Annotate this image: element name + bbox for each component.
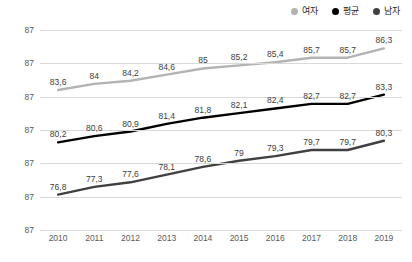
gridline [40,130,402,131]
legend-label: 여자 [302,7,318,16]
plot-area: 8787878787878783,68484,284,68585,285,485… [40,30,402,230]
chart-legend: 여자평균남자 [291,4,400,18]
gridline [40,30,402,31]
line-chart: 여자평균남자 8787878787878783,68484,284,68585,… [0,0,412,262]
y-axis-tick-label: 87 [25,192,34,201]
x-axis-tick-label: 2016 [266,234,285,243]
gridline [40,230,402,231]
x-axis: 2010201120122013201420152016201720182019 [40,232,402,248]
y-axis-tick-label: 87 [25,126,34,135]
x-axis-tick-label: 2010 [49,234,68,243]
legend-item-여자[interactable]: 여자 [291,7,318,16]
x-axis-tick-label: 2017 [302,234,321,243]
legend-dot-icon [332,8,339,15]
gridline [40,197,402,198]
x-axis-tick-label: 2015 [230,234,249,243]
y-axis-tick-label: 87 [25,26,34,35]
y-axis-tick-label: 87 [25,226,34,235]
legend-dot-icon [291,8,298,15]
x-axis-tick-label: 2012 [121,234,140,243]
y-axis-tick-label: 87 [25,159,34,168]
x-axis-tick-label: 2019 [374,234,393,243]
gridline [40,63,402,64]
series-line-여자 [58,48,384,90]
x-axis-tick-label: 2011 [85,234,103,243]
legend-label: 평균 [343,7,359,16]
legend-item-남자[interactable]: 남자 [373,7,400,16]
series-line-남자 [58,141,384,195]
x-axis-tick-label: 2014 [193,234,212,243]
legend-dot-icon [373,8,380,15]
legend-item-평균[interactable]: 평균 [332,7,359,16]
gridline [40,163,402,164]
gridline [40,97,402,98]
series-line-평균 [58,95,384,143]
x-axis-tick-label: 2013 [157,234,176,243]
y-axis-tick-label: 87 [25,92,34,101]
y-axis-tick-label: 87 [25,59,34,68]
x-axis-tick-label: 2018 [338,234,357,243]
legend-label: 남자 [384,7,400,16]
